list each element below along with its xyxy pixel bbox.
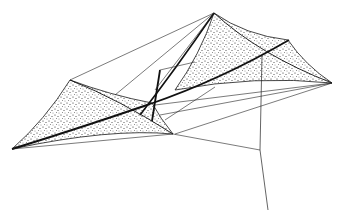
left-sail-panel — [12, 80, 173, 149]
kite-illustration — [0, 0, 342, 216]
right-sail-panel — [175, 13, 332, 90]
